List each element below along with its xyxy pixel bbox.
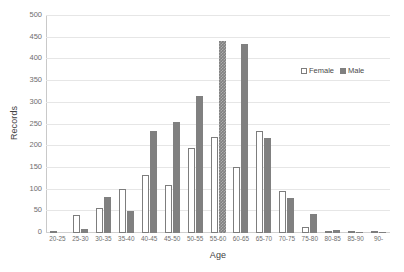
x-axis-tick-label: 45-50 [161, 236, 184, 242]
x-axis-title: Age [46, 250, 390, 260]
bar-female-80-85 [325, 231, 332, 233]
x-axis-tick-label: 30-35 [92, 236, 115, 242]
bar-group [207, 16, 230, 233]
bar-male-60-65 [241, 44, 248, 233]
bar-group [69, 16, 92, 233]
x-axis-tick-label: 70-75 [275, 236, 298, 242]
x-axis-tick-label: 50-55 [184, 236, 207, 242]
x-axis-tick-label: 60-65 [230, 236, 253, 242]
bar-group [92, 16, 115, 233]
bar-female-70-75 [279, 191, 286, 233]
bar-female-40-45 [142, 175, 149, 233]
x-axis-tick-label: 20-25 [46, 236, 69, 242]
bars-layer [46, 16, 390, 233]
bar-female-50-55 [188, 148, 195, 233]
y-axis-tick-label: 250 [29, 120, 42, 128]
bar-male-25-30 [81, 229, 88, 233]
bar-male-75-80 [310, 214, 317, 233]
legend-item-male: Male [340, 67, 364, 75]
bar-male-50-55 [196, 96, 203, 233]
bar-group [367, 16, 390, 233]
bar-male-80-85 [333, 230, 340, 233]
bar-group [115, 16, 138, 233]
bar-male-70-75 [287, 198, 294, 233]
bar-group [275, 16, 298, 233]
plot-area: 050100150200250300350400450500 [46, 16, 390, 233]
bar-group [46, 16, 69, 233]
legend-label-male: Male [348, 67, 364, 75]
chart-legend: Female Male [301, 67, 364, 75]
bar-chart: Records 050100150200250300350400450500 2… [0, 0, 404, 272]
bar-group [161, 16, 184, 233]
bar-male-90- [379, 232, 386, 233]
y-axis-tick-label: 400 [29, 55, 42, 63]
x-axis-tick-label: 75-80 [298, 236, 321, 242]
bar-group [230, 16, 253, 233]
bar-group [298, 16, 321, 233]
y-axis-tick-label: 200 [29, 141, 42, 149]
bar-female-90- [371, 231, 378, 233]
x-axis-tick-label: 55-60 [207, 236, 230, 242]
bar-female-30-35 [96, 208, 103, 233]
x-axis-tick-label: 90- [367, 236, 390, 242]
y-axis-tick-label: 150 [29, 163, 42, 171]
x-axis-tick-label: 40-45 [138, 236, 161, 242]
y-axis-tick-label: 0 [38, 228, 42, 236]
bar-female-25-30 [73, 215, 80, 233]
y-axis-tick-label: 350 [29, 76, 42, 84]
bar-female-45-50 [165, 185, 172, 233]
bar-male-45-50 [173, 122, 180, 233]
bar-male-65-70 [264, 138, 271, 233]
y-axis-tick-label: 300 [29, 98, 42, 106]
y-axis-title: Records [9, 88, 19, 158]
bar-group [344, 16, 367, 233]
y-axis-tick-label: 100 [29, 185, 42, 193]
bar-male-40-45 [150, 131, 157, 233]
bar-male-85-90 [356, 232, 363, 233]
x-axis-tick-label: 80-85 [321, 236, 344, 242]
y-axis-tick-label: 50 [34, 207, 42, 215]
bar-female-60-65 [233, 167, 240, 233]
y-axis-tick-label: 450 [29, 33, 42, 41]
bar-male-35-40 [127, 211, 134, 233]
bar-female-35-40 [119, 189, 126, 233]
bar-female-75-80 [302, 227, 309, 233]
legend-swatch-female-icon [301, 68, 307, 74]
legend-item-female: Female [301, 67, 334, 75]
x-axis-tick-label: 35-40 [115, 236, 138, 242]
bar-female-55-60 [211, 137, 218, 233]
bar-male-30-35 [104, 197, 111, 233]
bar-group [321, 16, 344, 233]
x-axis-tick-label: 25-30 [69, 236, 92, 242]
legend-label-female: Female [309, 67, 334, 75]
x-axis-tick-label: 65-70 [252, 236, 275, 242]
bar-female-85-90 [348, 231, 355, 233]
y-axis-tick-label: 500 [29, 11, 42, 19]
bar-male-55-60 [219, 41, 226, 233]
bar-group [138, 16, 161, 233]
x-axis-tick-labels: 20-2525-3030-3535-4040-4545-5050-5555-60… [46, 236, 390, 242]
x-axis-tick-label: 85-90 [344, 236, 367, 242]
bar-female-20-25 [50, 231, 57, 233]
bar-group [184, 16, 207, 233]
legend-swatch-male-icon [340, 68, 346, 74]
bar-group [252, 16, 275, 233]
bar-female-65-70 [256, 131, 263, 233]
